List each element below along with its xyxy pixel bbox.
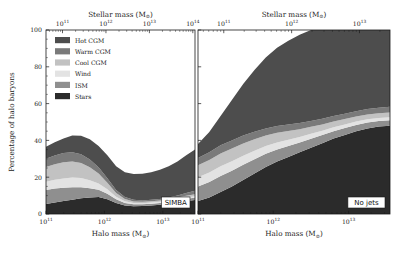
x-ticklabel-top: 1011 — [56, 19, 70, 27]
legend-label-hot-cgm: Hot CGM — [75, 37, 104, 44]
y-ticklabel: 20 — [34, 174, 42, 181]
legend-item-ism: ISM — [55, 82, 88, 89]
x-ticklabel-bottom: 1013 — [342, 217, 356, 225]
x-ticklabel-top: 1014 — [186, 19, 200, 27]
x-ticklabel-bottom: 1012 — [267, 217, 281, 225]
legend-item-warm-cgm: Warm CGM — [55, 48, 111, 55]
legend-label-cool-cgm: Cool CGM — [75, 59, 107, 66]
x-ticklabel-bottom: 1011 — [191, 217, 205, 225]
x-ticklabel-top: 1012 — [285, 19, 299, 27]
legend-swatch-wind — [55, 71, 70, 77]
legend-swatch-warm-cgm — [55, 48, 70, 54]
figure-root: 1011101210131011101210131014Stellar mass… — [0, 0, 401, 258]
x-axis-bottom-title: Halo mass (M⊙) — [92, 229, 150, 239]
x-ticklabel-bottom: 1011 — [39, 217, 53, 225]
legend-label-ism: ISM — [75, 82, 88, 89]
y-ticklabel: 40 — [34, 137, 42, 144]
panel-tag-simba: SIMBA — [165, 199, 187, 207]
legend-swatch-hot-cgm — [55, 37, 70, 43]
legend-swatch-stars — [55, 93, 70, 99]
panel-no-jets: 101110121013101110121013Stellar mass (M⊙… — [191, 10, 390, 239]
panel-simba: 1011101210131011101210131014Stellar mass… — [39, 10, 199, 239]
y-ticklabel: 100 — [30, 26, 42, 33]
stacked-area-figure: 1011101210131011101210131014Stellar mass… — [0, 0, 401, 258]
legend-label-stars: Stars — [75, 93, 91, 100]
legend-item-cool-cgm: Cool CGM — [55, 59, 107, 66]
x-axis-bottom-title: Halo mass (M⊙) — [265, 229, 323, 239]
legend-label-wind: Wind — [75, 70, 91, 77]
x-ticklabel-top: 1011 — [217, 19, 231, 27]
area-stack — [198, 30, 390, 214]
x-axis-top-title: Stellar mass (M⊙) — [262, 10, 327, 20]
legend-swatch-ism — [55, 82, 70, 88]
legend-label-warm-cgm: Warm CGM — [75, 48, 111, 55]
legend-item-stars: Stars — [55, 93, 91, 100]
y-ticklabel: 0 — [38, 210, 42, 217]
y-ticklabel: 60 — [34, 100, 42, 107]
x-axis-top-title: Stellar mass (M⊙) — [88, 10, 153, 20]
panel-tag-no-jets: No jets — [354, 199, 379, 207]
x-ticklabel-bottom: 1012 — [98, 217, 112, 225]
legend-item-wind: Wind — [55, 70, 91, 77]
x-ticklabel-bottom: 1013 — [156, 217, 170, 225]
x-ticklabel-top: 1013 — [353, 19, 367, 27]
x-ticklabel-top: 1012 — [99, 19, 113, 27]
x-ticklabel-top: 1013 — [143, 19, 157, 27]
legend: Hot CGMWarm CGMCool CGMWindISMStars — [55, 37, 111, 100]
y-ticklabel: 80 — [34, 63, 42, 70]
legend-swatch-cool-cgm — [55, 59, 70, 65]
legend-item-hot-cgm: Hot CGM — [55, 37, 104, 44]
y-axis-title: Percentage of halo baryons — [7, 72, 16, 172]
